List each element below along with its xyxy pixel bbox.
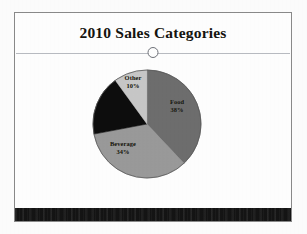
slide: 2010 Sales Categories Fo — [14, 12, 292, 222]
title-divider — [16, 47, 290, 59]
slide-content: 2010 Sales Categories Fo — [15, 13, 291, 221]
pie-label-food-name: Food — [170, 98, 184, 105]
pie-label-beverage-name: Beverage — [110, 140, 136, 147]
pie-label-other-name: Other — [125, 74, 142, 81]
pie-label-beverage: Beverage 34% — [99, 140, 147, 155]
pie-label-other: Other 10% — [115, 74, 151, 89]
ring-icon — [148, 47, 159, 58]
slide-footer-band — [15, 208, 291, 221]
pie-label-food: Food 38% — [159, 98, 195, 113]
page-title: 2010 Sales Categories — [15, 25, 291, 41]
pie-label-other-pct: 10% — [115, 82, 151, 90]
pie-chart: Food 38% Beverage 34% Other 10% — [15, 59, 291, 197]
pie-label-food-pct: 38% — [159, 106, 195, 114]
pie-label-beverage-pct: 34% — [99, 148, 147, 156]
pie-graphic: Food 38% Beverage 34% Other 10% — [91, 68, 203, 180]
